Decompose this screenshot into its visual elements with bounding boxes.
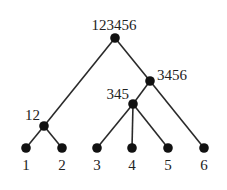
node-label-l2: 2 (58, 157, 66, 173)
node-root (110, 33, 120, 43)
node-label-n3456: 3456 (157, 67, 188, 83)
node-l2 (57, 143, 67, 153)
node-l5 (163, 143, 173, 153)
edge-root-n3456 (115, 38, 150, 81)
node-label-l6: 6 (200, 157, 208, 173)
node-n12 (39, 121, 49, 131)
edge-n345-l3 (97, 104, 133, 148)
node-l6 (199, 143, 209, 153)
tree-diagram: 123456345634512123456 (0, 0, 227, 190)
node-label-l3: 3 (93, 157, 101, 173)
node-label-l4: 4 (128, 157, 136, 173)
edge-n345-l4 (132, 104, 133, 148)
node-label-n12: 12 (25, 107, 40, 123)
node-n3456 (145, 76, 155, 86)
edge-n3456-l6 (150, 81, 204, 148)
node-l3 (92, 143, 102, 153)
node-label-l5: 5 (164, 157, 172, 173)
edge-root-n12 (44, 38, 115, 126)
edge-n345-l5 (133, 104, 168, 148)
node-l1 (21, 143, 31, 153)
node-l4 (127, 143, 137, 153)
node-n345 (128, 99, 138, 109)
node-label-l1: 1 (22, 157, 30, 173)
node-label-n345: 345 (107, 86, 130, 102)
node-label-root: 123456 (92, 17, 138, 33)
